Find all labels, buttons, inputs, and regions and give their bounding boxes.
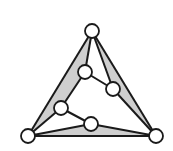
graph-node — [78, 65, 92, 79]
graph-diagram — [0, 0, 173, 151]
graph-node — [85, 24, 99, 38]
graph-node — [106, 82, 120, 96]
graph-edge — [92, 31, 156, 136]
graph-node — [149, 129, 163, 143]
graph-node — [84, 117, 98, 131]
graph-node — [21, 129, 35, 143]
graph-node — [54, 101, 68, 115]
